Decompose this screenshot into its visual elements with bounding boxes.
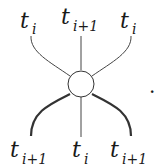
svg-text:t: t	[72, 137, 81, 162]
svg-text:t: t	[20, 8, 29, 33]
svg-text:t: t	[61, 4, 70, 29]
svg-text:i+1: i+1	[22, 151, 47, 167]
svg-text:t: t	[10, 137, 19, 162]
label-top-middle: t i+1	[61, 4, 98, 34]
svg-text:i: i	[32, 21, 36, 37]
vertex-node	[68, 71, 94, 97]
svg-text:i: i	[84, 151, 88, 167]
svg-text:i: i	[132, 21, 136, 37]
label-bottom-left: t i+1	[10, 137, 47, 167]
strand-top-left	[31, 36, 70, 76]
strand-bottom-left	[31, 94, 70, 136]
svg-text:t: t	[120, 8, 129, 33]
strand-top-right	[92, 36, 131, 76]
svg-text:t: t	[110, 137, 119, 162]
label-top-right: t i	[120, 8, 136, 37]
label-bottom-middle: t i	[72, 137, 88, 167]
svg-text:i+1: i+1	[73, 18, 98, 34]
label-top-left: t i	[20, 8, 36, 37]
label-bottom-right: t i+1	[110, 137, 147, 167]
svg-text:i+1: i+1	[122, 151, 147, 167]
diagram-canvas: t i t i+1 t i t i+1 t i t i+1 .	[0, 0, 162, 168]
trailing-period: .	[149, 74, 155, 98]
strand-bottom-right	[92, 94, 131, 136]
